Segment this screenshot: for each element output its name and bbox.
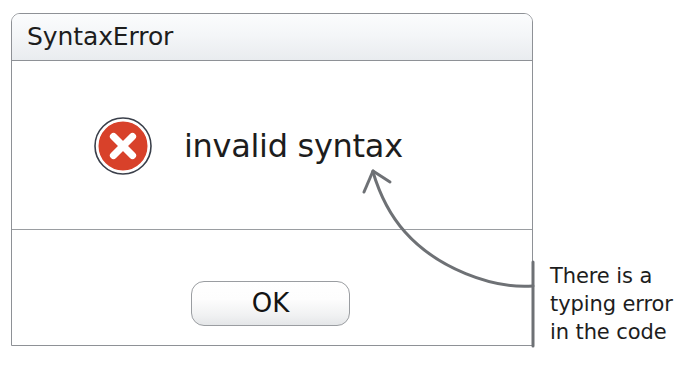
message-row: invalid syntax [12, 62, 532, 229]
dialog-button-bar: OK [12, 229, 532, 345]
annotation-text: There is a typing error in the code [550, 262, 687, 346]
annotation-line-1: There is a [550, 262, 687, 290]
ok-button[interactable]: OK [191, 281, 350, 326]
dialog-titlebar: SyntaxError [12, 14, 532, 61]
annotation-line-3: in the code [550, 318, 687, 346]
syntax-error-dialog: SyntaxError invalid syntax OK [11, 13, 533, 346]
error-cross-circle-icon [94, 117, 152, 175]
dialog-message: invalid syntax [184, 127, 403, 165]
annotation-line-2: typing error [550, 290, 687, 318]
dialog-title: SyntaxError [27, 21, 173, 53]
dialog-body: invalid syntax [12, 62, 532, 229]
